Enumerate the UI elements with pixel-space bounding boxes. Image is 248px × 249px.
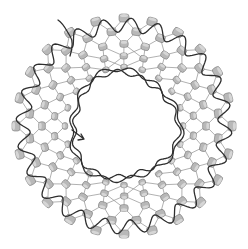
cylinder-subunit: [48, 80, 58, 91]
ring-assembly-figure: [0, 0, 248, 249]
cylinder-subunit: [172, 167, 182, 177]
cylinder-subunit: [146, 17, 158, 27]
cylinder-subunit: [121, 182, 128, 187]
cylinder-subunit: [131, 216, 141, 224]
cylinder-subunit: [140, 42, 150, 51]
cylinder-subunit: [155, 33, 166, 43]
cylinder-subunit: [120, 53, 128, 59]
cylinder-subunit: [51, 112, 58, 120]
cylinder-subunit: [190, 162, 200, 173]
inner-chain: [72, 70, 181, 179]
cylinder-subunit: [120, 41, 128, 48]
cylinder-subunit: [168, 87, 176, 96]
cylinder-subunit: [190, 132, 197, 140]
cylinder-subunit: [51, 132, 58, 140]
cylinder-subunit: [157, 180, 167, 189]
cylinder-subunit: [160, 50, 171, 60]
cylinder-subunit: [139, 55, 148, 63]
cylinder-subunit: [66, 167, 76, 177]
cylinder-subunit: [78, 192, 89, 202]
cylinder-subunit: [223, 148, 233, 160]
cylinder-subunit: [154, 170, 163, 178]
cylinder-subunit: [140, 201, 150, 210]
cylinder-subunit: [183, 92, 192, 101]
cylinder-subunit: [139, 189, 148, 197]
cylinder-subunit: [56, 92, 65, 101]
cylinder-subunit: [64, 104, 71, 112]
cylinder-subunit: [120, 205, 128, 212]
cylinder-subunits: [12, 14, 236, 238]
inner-chain: [70, 68, 184, 182]
cylinder-subunit: [61, 179, 72, 190]
cylinder-subunit: [66, 75, 76, 85]
cylinder-subunit: [100, 189, 109, 197]
cylinder-subunit: [90, 225, 102, 235]
cylinder-subunit: [190, 112, 197, 120]
cylinder-subunit: [172, 75, 182, 85]
cylinder-subunit: [203, 122, 210, 130]
cylinder-subunit: [31, 84, 41, 95]
cylinder-subunit: [26, 133, 34, 143]
cylinder-subunit: [98, 42, 108, 51]
molecular-ring-diagram: [0, 0, 248, 249]
cylinder-subunit: [190, 80, 200, 91]
cylinder-subunit: [177, 179, 188, 190]
cylinder-subunit: [177, 63, 188, 74]
cylinder-subunit: [98, 201, 108, 210]
cylinder-subunit: [214, 109, 222, 119]
cylinder-subunit: [78, 50, 89, 60]
cylinder-subunit: [107, 28, 117, 36]
cylinder-subunit: [61, 63, 72, 74]
cylinder-subunit: [120, 193, 128, 199]
cylinder-subunit: [48, 162, 58, 173]
cylinder-subunit: [183, 150, 192, 159]
cylinder-subunit: [39, 122, 46, 130]
cylinder-subunit: [81, 180, 91, 189]
cylinder-subunit: [56, 151, 65, 160]
cylinder-subunit: [100, 55, 109, 63]
cylinder-subunit: [81, 63, 91, 72]
cylinder-subunit: [15, 92, 25, 104]
cylinder-subunit: [160, 192, 171, 202]
cylinder-subunit: [157, 62, 167, 71]
cylinder-subunit: [62, 123, 67, 130]
cylinder-subunit: [82, 209, 93, 219]
cylinder-subunit: [207, 157, 217, 168]
cylinder-subunit: [138, 66, 146, 73]
